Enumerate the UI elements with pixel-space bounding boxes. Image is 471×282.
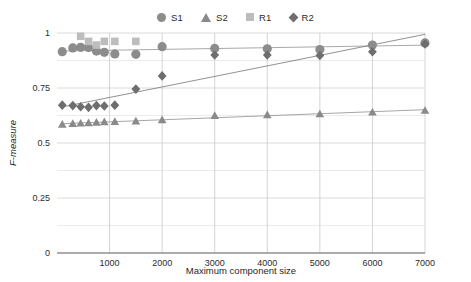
data-point-S2-5 <box>100 118 109 126</box>
data-point-S1-8 <box>158 42 167 51</box>
x-axis-title: Maximum component size <box>186 265 296 276</box>
data-point-R2-6 <box>110 100 119 110</box>
data-point-S1-7 <box>131 50 140 59</box>
data-point-R1-2 <box>93 41 101 49</box>
data-point-S1-2 <box>76 43 85 52</box>
data-point-S1-0 <box>58 47 67 56</box>
y-tick-1: 1 <box>45 28 50 38</box>
data-point-R2-5 <box>100 101 109 111</box>
y-tick-labels: 00.250.50.751 <box>32 28 50 258</box>
y-tick-0.25: 0.25 <box>32 193 50 203</box>
data-point-R2-1 <box>68 101 77 111</box>
data-point-S1-1 <box>68 43 77 52</box>
y-tick-0.75: 0.75 <box>32 83 50 93</box>
x-tick-7000: 7000 <box>415 258 435 268</box>
chart-plot: 1000200030004000500060007000 00.250.50.7… <box>0 0 471 282</box>
data-point-R1-1 <box>85 38 93 46</box>
data-point-S2-9 <box>210 111 219 119</box>
data-point-S2-10 <box>263 111 272 119</box>
data-point-R2-0 <box>58 100 67 110</box>
y-tick-0.5: 0.5 <box>37 138 50 148</box>
data-point-R2-3 <box>84 103 93 113</box>
data-point-S1-6 <box>110 49 119 58</box>
chart-root: S1 S2 R1 R2 1000200030004000500060007000… <box>0 0 471 282</box>
x-tick-6000: 6000 <box>362 258 382 268</box>
series-markers <box>58 33 430 128</box>
data-point-S1-5 <box>100 48 109 57</box>
data-point-R2-4 <box>92 101 101 111</box>
x-tick-5000: 5000 <box>310 258 330 268</box>
data-point-R2-8 <box>158 71 167 81</box>
data-point-R1-3 <box>101 38 109 46</box>
y-axis-title: F-measure <box>7 120 18 166</box>
data-point-R1-4 <box>111 38 119 46</box>
x-tick-2000: 2000 <box>152 258 172 268</box>
data-point-R1-5 <box>132 38 140 46</box>
y-tick-0: 0 <box>45 248 50 258</box>
data-point-R1-0 <box>77 33 85 41</box>
x-tick-1000: 1000 <box>100 258 120 268</box>
data-point-R2-2 <box>76 102 85 112</box>
